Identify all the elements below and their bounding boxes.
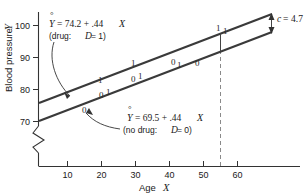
equation-upper-body: = 74.2 + .44 — [57, 19, 104, 29]
leader-arrow-no-drug — [86, 113, 120, 129]
y-axis-break-icon — [33, 126, 44, 153]
equation-upper-yvar: Y — [49, 18, 56, 29]
y-tick-label-70: 70 — [20, 117, 30, 127]
equation-lower-body: = 69.5 + .44 — [135, 113, 182, 123]
data-point-marker: 1 — [131, 58, 136, 68]
equation-lower-condition-open: (no drug: — [123, 125, 157, 135]
equation-lower-condition-close: = 0) — [177, 125, 192, 135]
data-point-marker: 1 — [138, 71, 143, 81]
data-point-marker: 0 — [195, 58, 200, 68]
x-tick-label-40: 40 — [164, 170, 174, 180]
y-axis-title: Blood pressure — [3, 28, 14, 92]
x-tick-label-10: 10 — [62, 170, 72, 180]
gap-label-symbol: c — [277, 14, 282, 24]
x-tick-label-60: 60 — [232, 170, 242, 180]
x-axis-title-variable: X — [162, 182, 170, 193]
gap-label-value: 4.7 — [291, 14, 303, 24]
gap-label-equals: = — [283, 14, 288, 24]
equation-upper-xvar: X — [118, 18, 126, 29]
x-axis-title: Age — [139, 182, 156, 193]
equation-lower-yvar: Y — [127, 112, 134, 123]
equation-lower-xvar: X — [196, 112, 204, 123]
y-axis-group: 100 90 80 70 Blood pressure Y — [3, 12, 44, 166]
regression-chart-figure: 100 90 80 70 Blood pressure Y 10 20 30 4… — [0, 0, 306, 194]
equation-upper-condition-open: (drug: — [49, 31, 71, 41]
data-point-marker: 1 — [98, 75, 103, 85]
x-tick-label-30: 30 — [130, 170, 140, 180]
y-axis-title-variable: Y — [3, 23, 14, 30]
data-point-marker: 0 — [99, 90, 104, 100]
data-point-marker: 0 — [131, 74, 136, 84]
leader-arrow-drug — [52, 42, 70, 96]
x-tick-label-50: 50 — [198, 170, 208, 180]
x-axis-group: 10 20 30 40 50 60 Age X — [39, 161, 301, 193]
equation-callout-no-drug: ° Y = 69.5 + .44 X (no drug: D = 0) — [86, 104, 204, 135]
data-point-marker: 0 — [171, 57, 176, 67]
regression-line-no-drug — [39, 32, 272, 121]
y-tick-label-100: 100 — [15, 21, 30, 31]
data-point-marker: 1 — [106, 87, 111, 97]
y-tick-label-80: 80 — [20, 85, 30, 95]
gap-annotation-group: c = 4.7 — [269, 13, 304, 34]
data-point-marker: 1 — [223, 26, 228, 36]
equation-upper-condition-close: = 1) — [91, 31, 106, 41]
data-point-marker: 1 — [177, 60, 182, 70]
x-tick-label-20: 20 — [96, 170, 106, 180]
data-point-marker: 1 — [216, 23, 221, 33]
y-tick-label-90: 90 — [20, 53, 30, 63]
